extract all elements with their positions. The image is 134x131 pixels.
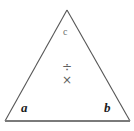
triangle-side-right bbox=[67, 10, 130, 121]
triangle-label-c: c bbox=[63, 27, 67, 37]
division-sign-icon: ÷ bbox=[60, 61, 74, 73]
triangle-side-left bbox=[5, 10, 67, 121]
geometry-figure: c ÷ × a b bbox=[0, 0, 134, 131]
triangle-label-b: b bbox=[104, 101, 111, 114]
triangle-label-a: a bbox=[21, 101, 28, 114]
multiplication-sign-icon: × bbox=[60, 74, 74, 86]
